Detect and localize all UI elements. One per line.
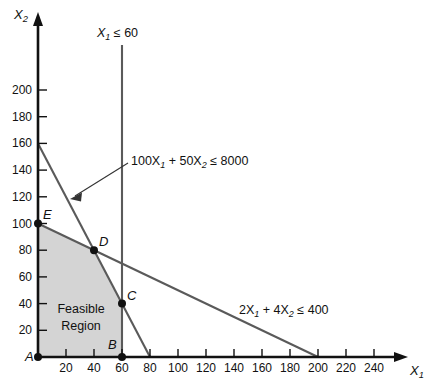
y-tick-label-200: 200	[12, 84, 32, 96]
y-tick-label-160: 160	[12, 137, 32, 149]
vertex-label-e: E	[43, 208, 52, 221]
feasible-region-label-line1: Feasible	[46, 303, 116, 316]
vertex-label-c: C	[127, 289, 136, 302]
vertex-label-a: A	[25, 350, 34, 363]
y-axis-arrow	[33, 12, 43, 26]
capacity-constraint-label: 100X1 + 50X2 ≤ 8000	[131, 155, 248, 170]
x-tick-label-20: 20	[59, 362, 72, 374]
x-tick-label-140: 140	[224, 362, 244, 374]
x-tick-label-240: 240	[364, 362, 384, 374]
y-tick-label-140: 140	[12, 164, 32, 176]
x-tick-label-120: 120	[196, 362, 216, 374]
x-tick-label-100: 100	[168, 362, 188, 374]
feasible-region-label-line2: Region	[46, 320, 116, 333]
y-tick-label-120: 120	[12, 191, 32, 203]
x-tick-label-200: 200	[308, 362, 328, 374]
vertex-point-e	[34, 220, 42, 228]
x-tick-label-60: 60	[115, 362, 128, 374]
y-tick-label-40: 40	[19, 298, 32, 310]
x-tick-label-80: 80	[143, 362, 156, 374]
vertex-point-a	[34, 353, 42, 361]
material-constraint-label: 2X1 + 4X2 ≤ 400	[239, 304, 329, 319]
vertex-label-b: B	[108, 338, 117, 351]
vertex-point-c	[118, 300, 126, 308]
y-tick-label-20: 20	[19, 324, 32, 336]
x-tick-label-220: 220	[336, 362, 356, 374]
x-axis-title: X1	[410, 364, 424, 380]
y-tick-label-100: 100	[12, 218, 32, 230]
y-tick-label-80: 80	[19, 244, 32, 256]
capacity-callout-arrow-shaft	[75, 163, 128, 196]
vertex-label-d: D	[99, 235, 108, 248]
y-axis-title: X2	[14, 8, 28, 24]
x-axis-arrow	[394, 352, 408, 362]
vertex-point-d	[90, 246, 98, 254]
x-tick-label-180: 180	[280, 362, 300, 374]
x-tick-label-40: 40	[87, 362, 100, 374]
vertex-point-b	[118, 353, 126, 361]
y-tick-label-180: 180	[12, 111, 32, 123]
y-tick-label-60: 60	[19, 271, 32, 283]
x-tick-label-160: 160	[252, 362, 272, 374]
capacity-callout-arrow-head	[70, 193, 82, 202]
x1-limit-label: X1 ≤ 60	[97, 27, 138, 42]
linear-programming-graph: X2 X1 20 40 60 80 100 120 140 160 180 20…	[0, 0, 435, 385]
